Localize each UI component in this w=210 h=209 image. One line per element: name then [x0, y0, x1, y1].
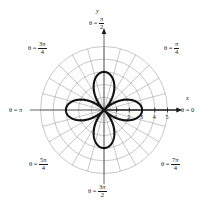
angle-label-theta-pi-4: θ = π4	[164, 41, 179, 55]
radial-tick-label-1: 1	[115, 114, 118, 120]
y-axis-label: y	[96, 8, 99, 15]
polar-plot-canvas	[0, 0, 210, 209]
angle-label-theta-5pi-4: θ = 5π4	[29, 157, 48, 171]
radial-tick-label-5: 5	[166, 114, 169, 120]
radial-tick-label-4: 4	[153, 114, 156, 120]
radial-tick-label-2: 2	[127, 114, 130, 120]
angle-label-theta-pi-2: θ = π2	[89, 16, 104, 30]
radial-tick-label-3: 3	[140, 114, 143, 120]
angle-label-theta-0: θ = 0	[181, 107, 194, 114]
angle-label-theta-3pi-4: θ = 3π4	[28, 41, 47, 55]
angle-label-theta-3pi-2: θ = 3π2	[88, 184, 107, 198]
polar-plot-figure: θ = 0 θ = π4 θ = π2 θ = 3π4 θ = π θ = 5π…	[0, 0, 210, 209]
angle-label-theta-pi: θ = π	[9, 107, 22, 114]
x-axis-label: x	[186, 95, 189, 102]
angle-label-theta-7pi-4: θ = 7π4	[161, 157, 180, 171]
